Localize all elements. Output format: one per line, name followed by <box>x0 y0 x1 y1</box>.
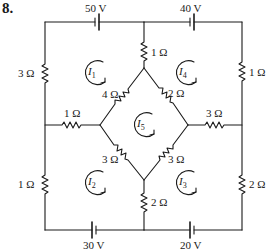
resistor-label-right-upper: 1 Ω <box>249 66 265 78</box>
source-label-30v: 30 V <box>83 239 105 251</box>
resistor-label-diamond-lower-left: 3 Ω <box>102 153 118 165</box>
wire-mid-left <box>45 122 100 128</box>
source-label-20v: 20 V <box>180 239 202 251</box>
mesh-label-I3: I3 <box>178 175 187 190</box>
wire-left <box>42 22 48 230</box>
wire-mid-right <box>188 122 242 128</box>
resistor-label-center-top: 1 Ω <box>151 46 167 58</box>
resistor-label-left-upper: 3 Ω <box>18 67 34 79</box>
mesh-label-I5: I5 <box>136 117 145 132</box>
resistor-label-left-lower: 1 Ω <box>18 178 34 190</box>
mesh-label-I4: I4 <box>178 65 187 80</box>
battery-20v <box>190 222 194 238</box>
mesh-label-I1: I1 <box>87 65 96 80</box>
resistor-label-center-bottom: 2 Ω <box>151 196 167 208</box>
resistor-label-diamond-upper-right: 2 Ω <box>168 87 184 99</box>
resistor-label-mid-right: 3 Ω <box>206 107 222 119</box>
wire-center-top <box>141 22 147 68</box>
wire-center-bottom <box>141 180 147 230</box>
resistor-label-right-lower: 2 Ω <box>249 178 265 190</box>
resistor-label-diamond-upper-left: 4 Ω <box>102 88 118 100</box>
circuit-diagram: 50 V 40 V 30 V 20 V 3 Ω 1 Ω 1 Ω 2 Ω 1 Ω … <box>0 0 266 252</box>
resistor-label-diamond-lower-right: 3 Ω <box>168 153 184 165</box>
source-label-40v: 40 V <box>180 2 202 14</box>
battery-40v <box>190 14 194 30</box>
mesh-label-I2: I2 <box>87 175 96 190</box>
source-label-50v: 50 V <box>85 2 107 14</box>
resistor-label-mid-left: 1 Ω <box>64 107 80 119</box>
battery-30v <box>92 222 96 238</box>
battery-50v <box>95 14 99 30</box>
wire-right <box>239 22 245 230</box>
